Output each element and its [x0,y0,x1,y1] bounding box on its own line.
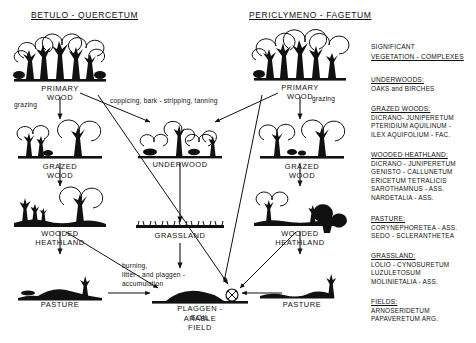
underwood-art [134,120,226,164]
process-label-burning-1: burning, [122,262,147,269]
legend-group-wooded-heathland: WOODED HEATHLAND: DICRANO - JUNIPERETUM … [371,151,456,203]
wooded-heathland-left-art [8,185,112,231]
node-label-primary-wood-left: PRIMARY WOOD [35,84,85,102]
node-label-pasture-right: PASTURE [283,300,321,309]
node-label-underwood: UNDERWOOD [152,160,207,169]
legend-line: GENISTO - CALLUNETUM [371,168,456,177]
wooded-heathland-right-art [248,185,352,231]
legend-line: ILEX AQUIFOLIUM - FAC. [371,131,454,140]
node-label-pasture-left: PASTURE [41,300,79,309]
column-title-right: PERICLYMENO - FAGETUM [249,10,371,20]
legend-line: PAPAVERETUM ARG. [371,315,438,324]
legend-group-head: WOODED HEATHLAND: [371,151,456,160]
legend-line: SEDO - SCLERANTHETEA [371,232,457,241]
grazed-wood-left-art [14,118,106,164]
legend-line: ERICETUM TETRALICIS [371,177,456,186]
legend-heading-line1: SIGNIFICANT [371,43,415,50]
legend-line: MOLINIETALIA - ASS. [371,278,449,287]
legend-line: DICRANO- JUNIPERETUM [371,114,454,123]
node-label-grazed-wood-left: GRAZED WOOD [37,162,83,180]
node-label-wooded-heathland-left: WOODED HEATHLAND [34,229,86,247]
legend-group-head: GRASSLAND: [371,252,449,261]
legend-group-underwoods: UNDERWOODS: OAKS and BIRCHES [371,76,435,93]
legend-group-fields: FIELDS: ARNOSERIDETUM PAPAVERETUM ARG. [371,298,438,324]
plaggen-soil-art [148,285,252,305]
pasture-left-art [14,272,106,302]
primary-wood-right-art [250,30,350,86]
node-label-grassland: GRASSLAND [155,231,206,240]
process-label-burning-2: litter - and plaggen - [122,271,185,278]
node-label-plaggen-line2: ARABLE FIELD [174,314,226,332]
pasture-right-art [256,272,348,302]
legend-group-head: UNDERWOODS: [371,76,435,85]
legend-line: PTERIDIUM AQUILINUM - [371,122,454,131]
primary-wood-left-art [10,34,110,86]
legend-line: LOLIO - CYNOSURETUM [371,261,449,270]
legend-group-grazed-woods: GRAZED WOODS: DICRANO- JUNIPERETUM PTERI… [371,105,454,139]
legend-group-head: FIELDS: [371,298,438,307]
legend-group-pasture: PASTURE: CORYNEPHORETEA - ASS. SEDO - SC… [371,215,457,241]
legend-line: ARNOSERIDETUM [371,307,438,316]
process-label-grazing-left: grazing [14,101,37,108]
column-title-left: BETULO - QUERCETUM [31,10,138,20]
process-label-coppicing: coppicing, bark - stripping, tanning [110,97,218,104]
legend-line: DICRANO - JUNIPERETUM [371,160,456,169]
grazed-wood-right-art [256,118,348,164]
legend-group-head: GRAZED WOODS: [371,105,454,114]
process-label-grazing-right: grazing [312,95,335,102]
legend-line: LUZULETOSUM [371,269,449,278]
node-label-grazed-wood-right: GRAZED WOOD [279,162,325,180]
legend-line: SAROTHAMNUS - ASS. [371,185,456,194]
legend-line: NARDETALIA - ASS. [371,194,456,203]
diagram-canvas: BETULO - QUERCETUM PERICLYMENO - FAGETUM [0,0,476,343]
legend-heading-line2: VEGETATION - COMPLEXES [371,53,464,60]
legend-group-head: PASTURE: [371,215,457,224]
node-label-wooded-heathland-right: WOODED HEATHLAND [274,229,326,247]
legend-group-grassland: GRASSLAND: LOLIO - CYNOSURETUM LUZULETOS… [371,252,449,286]
legend-line: OAKS and BIRCHES [371,85,435,94]
legend-line: CORYNEPHORETEA - ASS. [371,224,457,233]
